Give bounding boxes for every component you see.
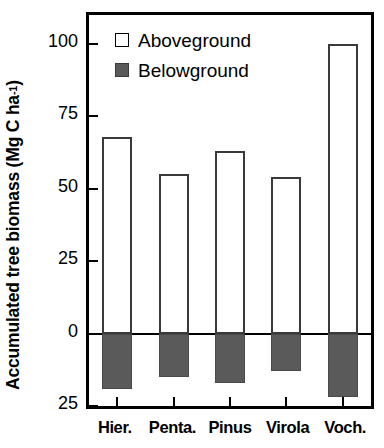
y-axis-tick-label: 100 [30, 32, 78, 50]
x-axis-category-label: Voch. [316, 418, 374, 444]
bar-aboveground [159, 174, 189, 333]
filled-square-icon [115, 63, 129, 77]
x-axis-tick-labels: Hier.Penta.PinusVirolaVoch. [86, 418, 374, 444]
x-axis-category-label: Penta. [144, 418, 202, 444]
bar-belowground [215, 334, 245, 383]
bar-belowground [159, 334, 189, 377]
x-axis-tick-mark [229, 397, 231, 406]
bar-aboveground [271, 177, 301, 333]
legend-label-belowground: Belowground [138, 61, 249, 80]
x-axis-category-label: Hier. [86, 418, 144, 444]
y-axis-tick-mark [89, 260, 98, 262]
x-axis-category-label: Pinus [201, 418, 259, 444]
x-axis-tick-mark [173, 397, 175, 406]
plot-area: Aboveground Belowground [86, 12, 374, 409]
x-axis-tick-mark [342, 397, 344, 406]
bar-aboveground [215, 151, 245, 333]
x-axis-category-label: Virola [259, 418, 317, 444]
bar-belowground [328, 334, 358, 398]
y-axis-tick-label: 25 [30, 394, 78, 412]
y-axis-tick-mark [89, 405, 98, 407]
bar-aboveground [102, 137, 132, 334]
chart-legend: Aboveground Belowground [115, 25, 251, 85]
y-axis-tick-label: 75 [30, 104, 78, 122]
legend-label-aboveground: Aboveground [138, 31, 251, 50]
bar-aboveground [328, 44, 358, 334]
plot-inner: Aboveground Belowground [89, 15, 371, 406]
y-axis-tick-label: 0 [30, 322, 78, 340]
legend-entry-aboveground: Aboveground [115, 25, 251, 55]
open-square-icon [115, 33, 129, 47]
chart-figure: Accumulated tree biomass (Mg C ha-1) 100… [0, 0, 384, 448]
y-axis-tick-mark [89, 188, 98, 190]
bar-belowground [102, 334, 132, 389]
y-axis-tick-mark [89, 43, 98, 45]
x-axis-tick-mark [285, 397, 287, 406]
y-axis-tick-mark [89, 115, 98, 117]
y-axis-tick-label: 50 [30, 177, 78, 195]
y-axis-tick-mark [89, 333, 98, 335]
bar-belowground [271, 334, 301, 372]
x-axis-tick-mark [116, 397, 118, 406]
legend-entry-belowground: Belowground [115, 55, 251, 85]
y-axis-tick-label: 25 [30, 249, 78, 267]
y-axis-tick-labels: 100755025025 [16, 0, 78, 448]
